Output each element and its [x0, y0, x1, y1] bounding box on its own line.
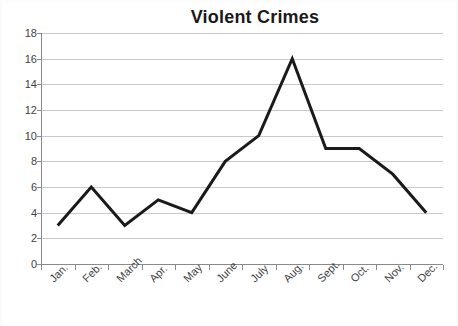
y-axis-tick-mark — [37, 59, 42, 60]
y-axis-tick-label: 14 — [3, 78, 37, 90]
y-axis-tick-label: 18 — [3, 27, 37, 39]
y-axis-tick-label: 4 — [3, 207, 37, 219]
x-axis-tick-mark — [108, 265, 109, 270]
gridline — [41, 59, 443, 60]
x-axis-tick-mark — [410, 265, 411, 270]
y-axis-tick-mark — [37, 161, 42, 162]
gridline — [41, 110, 443, 111]
y-axis-tick-mark — [37, 136, 42, 137]
y-axis-tick-mark — [37, 187, 42, 188]
x-axis-tick-label: Oct. — [348, 262, 371, 285]
x-axis-tick-label: Apr. — [147, 262, 169, 284]
x-axis-tick-mark — [242, 265, 243, 270]
y-axis-tick-label: 16 — [3, 53, 37, 65]
x-axis-tick-mark — [309, 265, 310, 270]
x-axis-tick-mark — [175, 265, 176, 270]
gridline — [41, 238, 443, 239]
gridline — [41, 33, 443, 34]
x-axis-tick-label: July — [248, 262, 270, 284]
gridline — [41, 213, 443, 214]
x-axis-tick-mark — [75, 265, 76, 270]
violent-crimes-line-chart: Violent Crimes 024681012141618 Jan.Feb.M… — [0, 0, 458, 326]
plot-area — [41, 33, 443, 264]
y-axis-tick-label: 8 — [3, 155, 37, 167]
scan-artifact-top — [0, 0, 458, 3]
y-axis-tick-label: 12 — [3, 104, 37, 116]
chart-title: Violent Crimes — [0, 7, 458, 28]
y-axis-tick-label: 6 — [3, 181, 37, 193]
gridline — [41, 187, 443, 188]
y-axis-tick-mark — [37, 33, 42, 34]
x-axis-tick-mark — [376, 265, 377, 270]
x-axis-tick-mark — [276, 265, 277, 270]
gridline — [41, 161, 443, 162]
y-axis-tick-mark — [37, 238, 42, 239]
y-axis-tick-labels: 024681012141618 — [0, 0, 37, 326]
x-axis-tick-mark — [343, 265, 344, 270]
gridline — [41, 84, 443, 85]
gridline — [41, 136, 443, 137]
y-axis-tick-label: 0 — [3, 258, 37, 270]
y-axis-tick-mark — [37, 84, 42, 85]
y-axis-tick-label: 2 — [3, 232, 37, 244]
y-axis-tick-label: 10 — [3, 130, 37, 142]
x-axis-tick-mark — [41, 265, 42, 270]
y-axis-tick-mark — [37, 213, 42, 214]
y-axis-tick-mark — [37, 110, 42, 111]
y-axis-line — [41, 33, 42, 265]
x-axis-tick-mark — [209, 265, 210, 270]
x-axis-tick-mark — [142, 265, 143, 270]
x-axis-tick-mark — [443, 265, 444, 270]
